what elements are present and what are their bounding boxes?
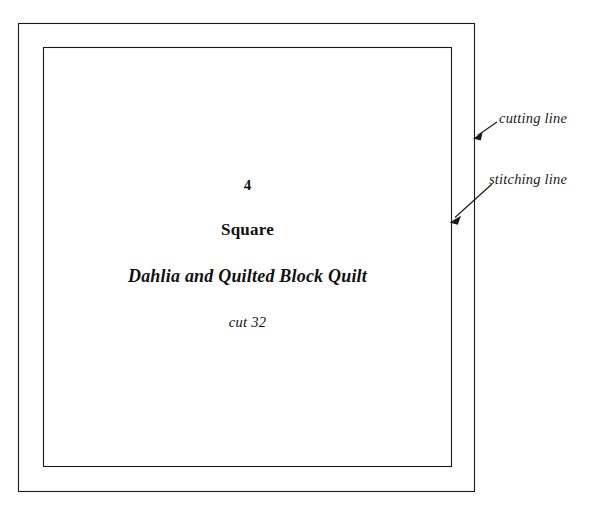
cutting-line-arrow xyxy=(473,122,497,141)
cut-instruction: cut 32 xyxy=(43,315,452,330)
pattern-template-page: 4 Square Dahlia and Quilted Block Quilt … xyxy=(0,0,595,507)
piece-number: 4 xyxy=(43,178,452,193)
shape-name: Square xyxy=(43,221,452,238)
pattern-name: Dahlia and Quilted Block Quilt xyxy=(43,267,452,285)
template-text-block: 4 Square Dahlia and Quilted Block Quilt … xyxy=(43,178,452,330)
stitching-line-label: stitching line xyxy=(489,171,567,188)
cutting-line-label: cutting line xyxy=(499,110,567,127)
stitching-line-arrow xyxy=(450,184,493,225)
